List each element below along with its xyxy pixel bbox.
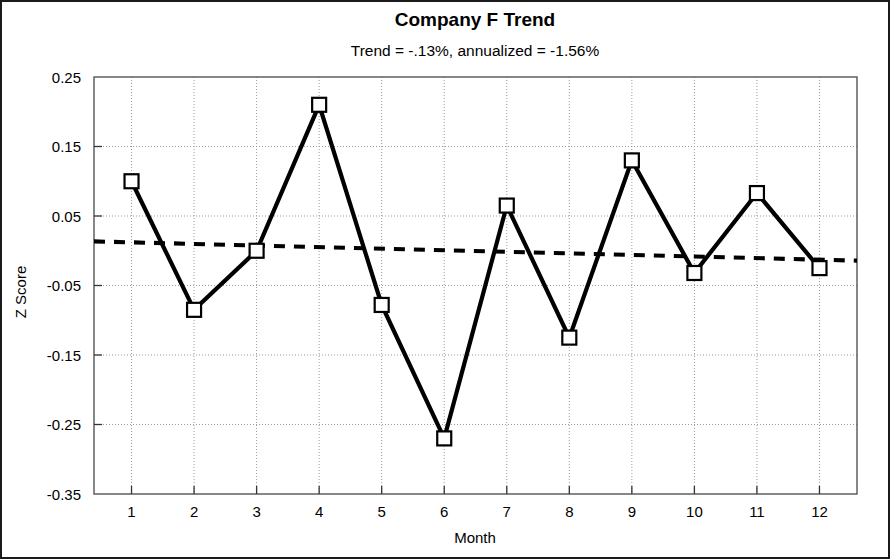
data-point-marker [187,303,201,317]
x-tick-label: 5 [378,503,386,520]
chart-title: Company F Trend [395,9,555,30]
chart-subtitle: Trend = -.13%, annualized = -1.56% [351,42,600,59]
data-point-marker [812,261,826,275]
x-axis-label: Month [454,529,496,546]
y-tick-label: 0.25 [52,69,81,86]
x-tick-label: 11 [749,503,765,520]
y-tick-label: -0.15 [47,347,81,364]
data-point-marker [500,199,514,213]
data-point-marker [437,431,451,445]
x-tick-label: 4 [315,503,323,520]
y-tick-label: 0.05 [52,208,81,225]
x-tick-label: 10 [686,503,703,520]
y-tick-label: 0.15 [52,138,81,155]
data-point-marker [750,186,764,200]
trend-chart: Company F Trend Trend = -.13%, annualize… [2,2,890,559]
x-tick-label: 6 [440,503,448,520]
y-tick-label: -0.35 [47,486,81,503]
x-axis-ticks: 123456789101112 [127,486,827,520]
x-tick-label: 3 [252,503,260,520]
data-point-marker [312,98,326,112]
y-tick-label: -0.25 [47,416,81,433]
data-point-marker [250,244,264,258]
trend-line-series [94,241,857,260]
data-point-marker [687,266,701,280]
chart-titles: Company F Trend Trend = -.13%, annualize… [351,9,600,59]
x-tick-label: 1 [127,503,135,520]
x-tick-label: 8 [565,503,573,520]
zscore-line-series [132,105,820,439]
y-axis-label: Z Score [12,266,29,319]
x-tick-label: 2 [190,503,198,520]
x-tick-label: 7 [503,503,511,520]
x-tick-label: 9 [628,503,636,520]
x-tick-label: 12 [811,503,828,520]
data-point-markers [125,98,827,446]
data-point-marker [125,174,139,188]
y-tick-label: -0.05 [47,277,81,294]
data-point-marker [562,331,576,345]
data-point-marker [625,153,639,167]
chart-figure: Company F Trend Trend = -.13%, annualize… [0,0,890,559]
gridlines [94,77,857,494]
data-point-marker [375,298,389,312]
